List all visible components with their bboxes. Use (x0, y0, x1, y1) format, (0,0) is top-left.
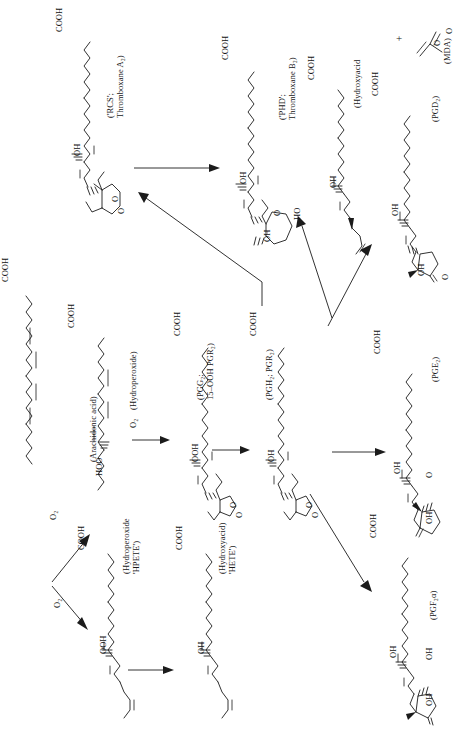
arrow-label-o2-2: O₂ (52, 608, 61, 618)
atom-cooh-pgd2: COOH (370, 72, 380, 96)
atom-o-mda-a: O (432, 40, 442, 46)
arrow-hpete-to-hete-svg (126, 660, 176, 680)
label-pgd2-text: (PGD₂) (430, 96, 440, 122)
label-hydroperoxide-text: (Hydroperoxide) (128, 351, 138, 410)
label-txa2-line2-text: Thromboxane A₂) (116, 55, 126, 118)
atom-ooh-hpete: OOH (98, 636, 108, 654)
label-hpete-line2: 'HPETE') (132, 574, 165, 584)
figure-canvas: COOH (Arachidonic acid) O₂ O₂ (0, 0, 471, 729)
atom-o-pgg2-a: O (228, 502, 238, 508)
atom-ooh-pgg2: OOH (190, 444, 200, 462)
atom-cooh-hete: COOH (174, 526, 184, 550)
atom-oh-pgf2a-side: OH (388, 646, 398, 658)
label-pgh2-text: (PGH₂; PGR₂) (264, 349, 274, 400)
atom-cooh-pgf2a: COOH (368, 514, 378, 538)
label-pgd2: (PGD₂) (430, 122, 456, 132)
atom-oh-pgf2a-ring-a: OH (424, 694, 434, 706)
atom-oh-pgh2: OH (266, 450, 276, 462)
arrow-txa2-to-txb2-svg (132, 158, 222, 178)
atom-oh-txb2-side: OH (238, 172, 248, 184)
atom-o-txa2-a: O (110, 196, 120, 202)
arrow-label-o2-1: O₂ (48, 520, 57, 530)
label-pgf2a: (PGF₂α) (428, 620, 457, 630)
label-txb2-line2-text: Thromboxane B₂) (288, 57, 298, 120)
node-pgf2a: COOH OH OH OH (374, 724, 471, 729)
atom-oh-hete: OH (196, 642, 206, 654)
atom-cooh-pgg2: COOH (172, 312, 182, 336)
plus-sign: + (396, 32, 402, 44)
atom-cooh-hpete: COOH (76, 526, 86, 550)
atom-cooh-arachidonic: COOH (0, 258, 10, 282)
arrow-pgh2-to-pgf2a (306, 490, 380, 598)
atom-ho-txb2: HO (292, 208, 302, 220)
arrow-txa2-to-txb2 (132, 158, 222, 178)
arrow-pgh2-to-pgf2a-svg (306, 490, 380, 598)
atom-oh-pge2-side: OH (392, 462, 402, 474)
arrow-label-o2-3: O₂ (128, 428, 137, 438)
atom-hoo-hydroperoxide: HOO (94, 458, 104, 476)
atom-o-pgg2-b: O (234, 512, 244, 518)
atom-o-mda-b: O (444, 28, 454, 34)
atom-o-pgd2-ketone: O (440, 274, 450, 280)
arrow-pgg2-to-pgh2 (210, 440, 252, 460)
atom-cooh-txb2: COOH (220, 36, 230, 60)
label-pge2: (PGE₂) (430, 382, 455, 392)
arrow-label-o2-2-text: O₂ (52, 599, 62, 608)
structure-pgh2 (252, 334, 314, 520)
atom-oh-txa2: OH (72, 144, 82, 156)
label-pgf2a-text: (PGF₂α) (428, 591, 438, 620)
label-pgh2: (PGH₂; PGR₂) (264, 400, 315, 410)
atom-oh-txb2-ring: OH (262, 230, 272, 242)
atom-o-txb2-ring: O (272, 210, 282, 216)
arrow-pgg2-to-pgh2-svg (210, 440, 252, 460)
node-pgd2: COOH OH OH O (376, 282, 471, 348)
arrow-hpete-to-hete (126, 660, 176, 680)
atom-oh-pgd2-ring: OH (416, 264, 426, 276)
label-mda-text: (MDA) (442, 38, 452, 64)
node-txa2: COOH OH O O (58, 218, 244, 284)
label-hydroxyacid-text: (Hydroxyacid (352, 60, 362, 108)
atom-oh-pgf2a-ring-b: OH (424, 648, 434, 660)
label-txa2-line2: Thromboxane A₂) (116, 118, 179, 128)
atom-cooh-pge2: COOH (372, 330, 382, 354)
label-pgg2-line2: 15–OOH PGR₂) (206, 343, 216, 400)
label-hpete-line2-text: 'HPETE') (132, 541, 142, 574)
label-hete-line2: 'HETE') (228, 574, 256, 584)
atom-o-pge2-ketone: O (424, 472, 434, 478)
atom-oh-pgd2-side: OH (390, 204, 400, 216)
arrow-label-o2-3-text: O₂ (128, 419, 138, 428)
arrow-label-o2-1-text: O₂ (48, 511, 58, 520)
atom-o-txa2-b: O (116, 208, 126, 214)
label-mda: (MDA) (442, 64, 468, 74)
label-hete-line2-text: 'HETE') (228, 546, 238, 574)
atom-cooh-txa2: COOH (54, 8, 64, 32)
atom-cooh-hydroxyacid: COOH (306, 56, 316, 80)
atom-oh-hydroxyacid: OH (328, 176, 338, 188)
node-hete: COOH OH (180, 724, 356, 729)
label-pge2-text: (PGE₂) (430, 357, 440, 382)
atom-cooh-hydroperoxide: COOH (66, 304, 76, 328)
atom-oh-pge2-ring: OH (424, 512, 434, 524)
structure-arachidonic-acid (2, 280, 50, 470)
